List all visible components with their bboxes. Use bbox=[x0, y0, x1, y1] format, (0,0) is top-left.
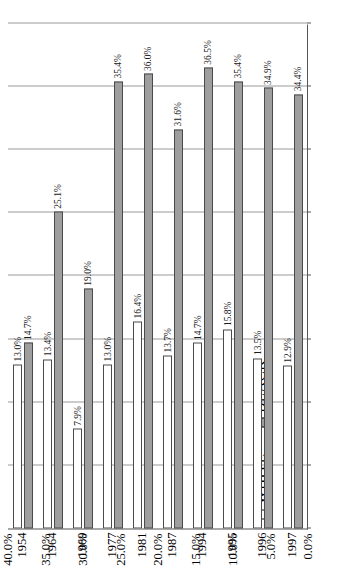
bar-white bbox=[223, 329, 232, 528]
bar-white bbox=[283, 365, 292, 528]
bar-black bbox=[114, 81, 123, 528]
category-axis-labels: 1954196419691977198119871994199519961997 bbox=[8, 531, 308, 571]
bar-black bbox=[144, 74, 153, 529]
bar-black bbox=[264, 87, 273, 528]
bar-value-label: 13.4% bbox=[43, 331, 53, 356]
bar-value-label: 13.0% bbox=[13, 336, 23, 361]
bar-white bbox=[43, 359, 52, 528]
bar-black bbox=[84, 288, 93, 528]
category-label: 1996 bbox=[255, 532, 270, 557]
bar-black bbox=[54, 211, 63, 528]
bar-white bbox=[133, 321, 142, 528]
bar-value-label: 13.7% bbox=[163, 328, 173, 353]
bar-group: 13.5%34.9% bbox=[248, 24, 278, 528]
category-label: 1977 bbox=[105, 532, 120, 557]
chart-figure: WHITE BLACK 0.0%5.0%10.0%15.0%20.0%25.0%… bbox=[0, 0, 352, 581]
category-label: 1954 bbox=[15, 532, 30, 557]
category-label: 1997 bbox=[285, 532, 300, 557]
category-label: 1994 bbox=[195, 532, 210, 557]
plot-area: 13.0%14.7%13.4%25.1%7.9%19.0%13.0%35.4%1… bbox=[8, 24, 308, 529]
bar-group: 7.9%19.0% bbox=[68, 24, 98, 528]
bar-value-label: 15.8% bbox=[223, 301, 233, 326]
category-label: 1969 bbox=[75, 532, 90, 557]
bar-group: 13.7%31.6% bbox=[158, 24, 188, 528]
bar-value-label: 31.6% bbox=[173, 102, 183, 127]
bar-white bbox=[193, 342, 202, 528]
bar-value-label: 36.0% bbox=[143, 46, 153, 71]
bar-value-label: 14.7% bbox=[193, 315, 203, 340]
bar-value-label: 19.0% bbox=[83, 261, 93, 286]
bar-group: 15.8%35.4% bbox=[218, 24, 248, 528]
bar-value-label: 35.4% bbox=[113, 54, 123, 79]
bar-white bbox=[163, 355, 172, 528]
bar-value-label: 7.9% bbox=[73, 405, 83, 425]
bar-black bbox=[204, 67, 213, 528]
bar-value-label: 34.4% bbox=[293, 66, 303, 91]
bar-white bbox=[103, 364, 112, 528]
bar-value-label: 36.5% bbox=[203, 40, 213, 65]
bar-value-label: 13.5% bbox=[253, 330, 263, 355]
bar-white bbox=[253, 358, 262, 528]
bar-group: 13.4%25.1% bbox=[38, 24, 68, 528]
bar-black bbox=[234, 81, 243, 528]
category-label: 1981 bbox=[135, 532, 150, 557]
bar-groups: 13.0%14.7%13.4%25.1%7.9%19.0%13.0%35.4%1… bbox=[8, 24, 307, 528]
bar-black bbox=[294, 94, 303, 528]
gridline bbox=[8, 22, 307, 23]
bar-white bbox=[13, 364, 22, 528]
bar-group: 12.9%34.4% bbox=[278, 24, 308, 528]
bar-group: 13.0%35.4% bbox=[98, 24, 128, 528]
bar-value-label: 13.0% bbox=[103, 336, 113, 361]
bar-group: 14.7%36.5% bbox=[188, 24, 218, 528]
category-label: 1987 bbox=[165, 532, 180, 557]
bar-value-label: 16.4% bbox=[133, 293, 143, 318]
bar-value-label: 12.9% bbox=[283, 338, 293, 363]
chart-canvas: WHITE BLACK 0.0%5.0%10.0%15.0%20.0%25.0%… bbox=[0, 0, 352, 581]
bar-group: 16.4%36.0% bbox=[128, 24, 158, 528]
axis-tick bbox=[307, 22, 311, 23]
bar-white bbox=[73, 428, 82, 528]
bar-black bbox=[24, 342, 33, 528]
bar-value-label: 25.1% bbox=[53, 184, 63, 209]
category-label: 1964 bbox=[45, 532, 60, 557]
bar-group: 13.0%14.7% bbox=[8, 24, 38, 528]
bar-value-label: 34.9% bbox=[263, 60, 273, 85]
category-label: 1995 bbox=[225, 532, 240, 557]
bar-value-label: 35.4% bbox=[233, 54, 243, 79]
bar-black bbox=[174, 129, 183, 528]
bar-value-label: 14.7% bbox=[23, 315, 33, 340]
